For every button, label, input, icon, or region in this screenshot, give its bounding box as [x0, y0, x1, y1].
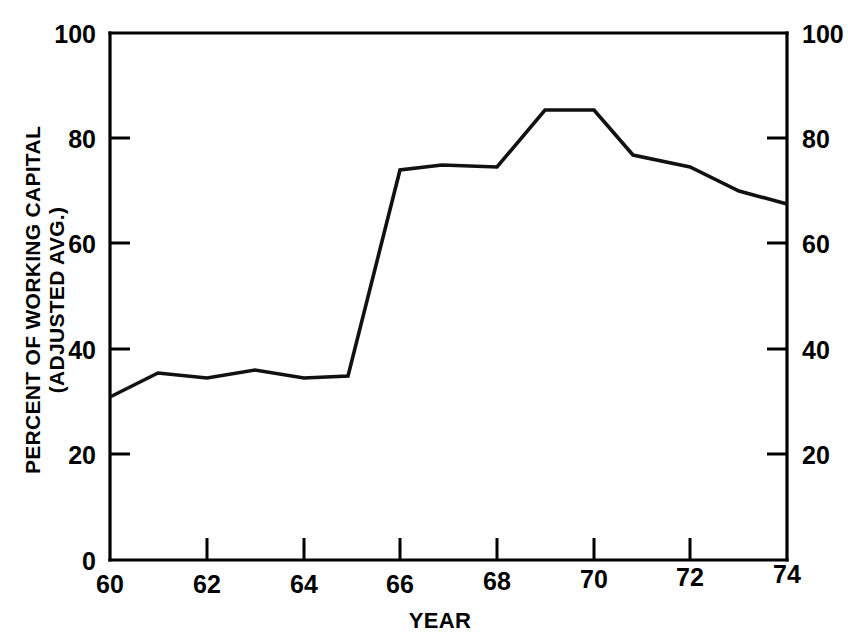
x-tick-label-70: 70 — [580, 565, 608, 593]
y-axis-title-line2: (ADJUSTED AVG.) — [45, 207, 68, 394]
left-axis-ticks — [110, 138, 130, 454]
y-right-tick-label-60: 60 — [802, 230, 830, 258]
axis-frame — [110, 33, 787, 560]
x-tick-label-72: 72 — [676, 563, 704, 591]
right-axis-ticks — [767, 138, 787, 454]
x-axis-title: YEAR — [409, 608, 472, 633]
y-right-tick-label-40: 40 — [802, 336, 830, 364]
chart-container: 100 80 60 40 20 0 100 80 60 40 20 60 62 … — [0, 0, 848, 644]
bottom-axis-ticks — [207, 538, 690, 560]
x-tick-label-74: 74 — [773, 560, 801, 588]
y-tick-label-60: 60 — [68, 230, 96, 258]
y-axis-title: PERCENT OF WORKING CAPITAL (ADJUSTED AVG… — [21, 126, 68, 474]
right-y-tick-labels: 100 80 60 40 20 — [802, 20, 844, 469]
x-tick-label-62: 62 — [193, 570, 221, 598]
y-right-tick-label-20: 20 — [802, 441, 830, 469]
y-tick-label-20: 20 — [68, 441, 96, 469]
y-tick-label-40: 40 — [68, 336, 96, 364]
data-series-line — [110, 110, 787, 397]
x-tick-label-64: 64 — [290, 570, 318, 598]
y-tick-label-80: 80 — [68, 125, 96, 153]
y-axis-title-line1: PERCENT OF WORKING CAPITAL — [21, 126, 44, 474]
x-tick-label-68: 68 — [483, 567, 511, 595]
y-tick-label-100: 100 — [54, 20, 96, 48]
y-right-tick-label-80: 80 — [802, 125, 830, 153]
y-tick-label-0: 0 — [82, 547, 96, 575]
y-right-tick-label-100: 100 — [802, 20, 844, 48]
x-tick-labels: 60 62 64 66 68 70 72 74 — [96, 560, 801, 598]
x-tick-label-66: 66 — [386, 570, 414, 598]
x-tick-label-60: 60 — [96, 570, 124, 598]
line-chart: 100 80 60 40 20 0 100 80 60 40 20 60 62 … — [0, 0, 848, 644]
